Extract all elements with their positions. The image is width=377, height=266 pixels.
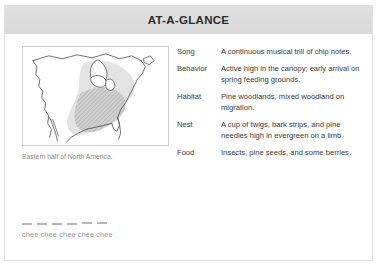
great-lakes-lower bbox=[105, 79, 114, 90]
song-mark-icon bbox=[37, 223, 47, 225]
fact-value: A continuous musical trill of chip notes… bbox=[221, 47, 362, 58]
facts-list: Song A continuous musical trill of chip … bbox=[177, 47, 362, 166]
song-mark-icon bbox=[82, 222, 92, 224]
fact-row-food: Food Insects, pine seeds, and some berri… bbox=[177, 148, 362, 159]
card-header: AT-A-GLANCE bbox=[5, 6, 372, 34]
fact-row-habitat: Habitat Pine woodlands, mixed woodland o… bbox=[177, 92, 362, 114]
fact-value: Active high in the canopy; early arrival… bbox=[221, 64, 362, 86]
range-map-icon bbox=[23, 47, 168, 145]
fact-label: Habitat bbox=[177, 92, 221, 103]
fact-label: Song bbox=[177, 47, 221, 58]
fact-row-behavior: Behavior Active high in the canopy; earl… bbox=[177, 64, 362, 86]
at-a-glance-card: AT-A-GLANCE bbox=[4, 5, 373, 261]
card-body: Eastern half of North America. Song A co… bbox=[5, 34, 372, 260]
range-map-frame bbox=[22, 46, 169, 146]
fact-row-nest: Nest A cup of twigs, bark strips, and pi… bbox=[177, 120, 362, 142]
song-mark-icon bbox=[22, 223, 32, 225]
song-notation: chee chee chee chee chee bbox=[22, 216, 222, 239]
fact-value: Insects, pine seeds, and some berries. bbox=[221, 148, 362, 159]
song-syllables: chee chee chee chee chee bbox=[22, 230, 222, 239]
fact-value: A cup of twigs, bark strips, and pine ne… bbox=[221, 120, 362, 142]
fact-value: Pine woodlands, mixed woodland on migrat… bbox=[221, 92, 362, 114]
song-mark-icon bbox=[52, 223, 62, 225]
page-title: AT-A-GLANCE bbox=[148, 14, 230, 26]
song-mark-icon bbox=[67, 223, 77, 225]
fact-label: Nest bbox=[177, 120, 221, 131]
fact-row-song: Song A continuous musical trill of chip … bbox=[177, 47, 362, 58]
fact-label: Behavior bbox=[177, 64, 221, 75]
song-notation-marks bbox=[22, 216, 222, 225]
screenshot-root: AT-A-GLANCE bbox=[0, 0, 377, 266]
fact-label: Food bbox=[177, 148, 221, 159]
range-map-panel: Eastern half of North America. bbox=[22, 46, 169, 161]
map-caption: Eastern half of North America. bbox=[22, 153, 169, 161]
song-mark-icon bbox=[97, 222, 107, 224]
